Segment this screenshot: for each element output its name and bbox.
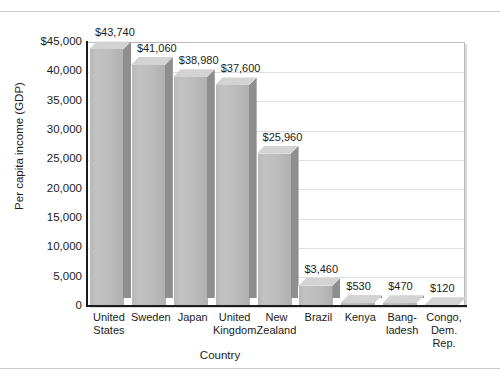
x-axis-line [86,305,467,307]
chart-figure: $45,00040,00035,00030,00025,00020,00015,… [0,0,500,377]
bar-value-label: $41,060 [137,42,177,54]
y-axis-tick-label: 5,000 [53,270,82,282]
bar [257,146,299,306]
y-axis-title: Per capita income (GDP) [13,61,25,231]
y-axis-tick-label: $45,000 [40,35,82,47]
bar-value-label: $37,600 [221,62,261,74]
x-axis-category-label-line: Congo, [416,311,472,324]
bar-value-label: $530 [346,280,370,292]
x-axis-title: Country [0,349,500,361]
bar [131,57,173,306]
x-axis-title-text: Country [200,349,240,361]
y-axis-tick-label: 30,000 [47,123,82,135]
bar-side-face [165,57,173,298]
bar-value-label: $470 [388,280,412,292]
y-axis-tick-label: 20,000 [47,182,82,194]
bar-top-face [340,295,382,303]
bar [173,69,215,306]
y-axis-tick-label: 0 [76,299,82,311]
x-axis-category-label-line: Zealand [249,324,305,337]
y-axis-line [86,41,88,307]
bar-front-face [131,65,166,306]
bar-side-face [207,69,215,298]
y-axis-tick-label: 25,000 [47,152,82,164]
bar-value-label: $120 [430,282,454,294]
bar-value-label: $25,960 [263,131,303,143]
y-axis-tick-label: 40,000 [47,64,82,76]
bar-top-face [382,295,424,303]
bar [215,77,257,306]
y-axis-tick-label: 35,000 [47,94,82,106]
x-axis-category-label-line: Dem. [416,324,472,337]
bar-side-face [249,77,257,298]
bar-front-face [298,286,333,306]
bar-side-face [291,146,299,298]
bar-value-label: $3,460 [304,263,338,275]
bar-front-face [89,49,124,306]
y-axis-tick-label: 15,000 [47,211,82,223]
bar [89,41,131,306]
y-axis-tick-label: 10,000 [47,240,82,252]
bar-front-face [257,154,292,306]
bar-value-label: $38,980 [179,54,219,66]
bar [298,278,340,306]
bar-value-label: $43,740 [95,26,135,38]
x-axis-category-label-line: States [81,324,137,337]
bar-front-face [173,77,208,306]
bar-front-face [215,85,250,306]
x-axis-category-label: Congo,Dem.Rep. [416,311,472,350]
bar-side-face [123,41,131,298]
